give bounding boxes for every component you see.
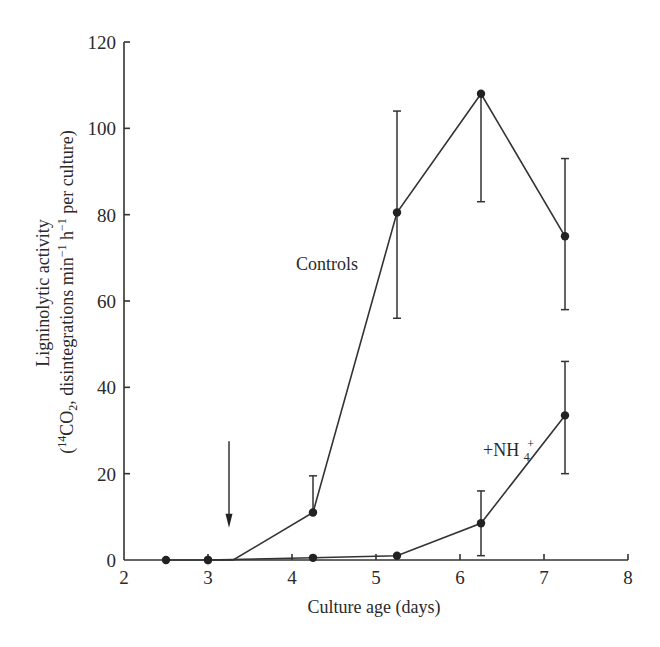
arrow-head — [226, 514, 233, 528]
data-point-controls — [162, 556, 170, 564]
error-bars — [309, 94, 569, 556]
x-tick-label: 2 — [119, 567, 129, 588]
y-tick-label: 0 — [107, 550, 117, 571]
y-tick-label: 20 — [97, 464, 116, 485]
data-point-nh4 — [393, 551, 401, 559]
ylabel-h: h — [57, 231, 77, 245]
ylabel-co: CO — [57, 411, 77, 436]
ylabel-sup-h: −1 — [55, 218, 69, 231]
ylabel-sup-min: −1 — [55, 244, 69, 257]
y-tick-label: 120 — [88, 32, 117, 53]
x-ticks: 2345678 — [119, 554, 633, 588]
series-lines — [166, 94, 565, 560]
ylabel-sup14: 14 — [55, 436, 69, 448]
nh4-addition-arrow-icon — [226, 441, 233, 527]
data-point-nh4 — [309, 554, 317, 562]
nh4-label-sup: + — [527, 437, 534, 451]
nh4-label-main: +NH — [483, 440, 519, 460]
series-label-controls: Controls — [296, 254, 358, 274]
nh4-label-sub: 4 — [524, 450, 530, 464]
data-point-controls — [393, 208, 401, 216]
y-axis-title: Ligninolytic activity — [33, 219, 53, 366]
x-tick-label: 7 — [539, 567, 549, 588]
y-axis-title-line1: Ligninolytic activity — [33, 219, 53, 366]
x-tick-label: 5 — [371, 567, 381, 588]
x-tick-label: 3 — [203, 567, 213, 588]
x-tick-label: 6 — [455, 567, 465, 588]
axes — [124, 42, 628, 560]
y-tick-label: 40 — [97, 377, 116, 398]
y-tick-label: 100 — [88, 118, 117, 139]
y-axis-subtitle: (14CO2, disintegrations min−1 h−1 per cu… — [55, 130, 80, 454]
ylabel-tail: per culture) — [57, 130, 78, 218]
ylabel-mid: , disintegrations min — [57, 257, 77, 405]
data-point-controls — [477, 90, 485, 98]
data-point-nh4 — [204, 556, 212, 564]
y-axis-title-line2: (14CO2, disintegrations min−1 h−1 per cu… — [55, 130, 80, 454]
data-point-controls — [309, 508, 317, 516]
x-tick-label: 4 — [287, 567, 297, 588]
lignin-activity-chart: 020406080100120 2345678 Controls +NH 4 +… — [0, 0, 660, 647]
y-tick-label: 60 — [97, 291, 116, 312]
series-line-nh4 — [208, 415, 565, 560]
series-label-nh4: +NH 4 + — [483, 437, 534, 465]
y-tick-label: 80 — [97, 205, 116, 226]
x-axis-title: Culture age (days) — [308, 597, 441, 618]
series-line-controls — [166, 94, 565, 560]
data-point-controls — [561, 232, 569, 240]
data-point-nh4 — [561, 411, 569, 419]
data-point-nh4 — [477, 519, 485, 527]
x-tick-label: 8 — [623, 567, 633, 588]
